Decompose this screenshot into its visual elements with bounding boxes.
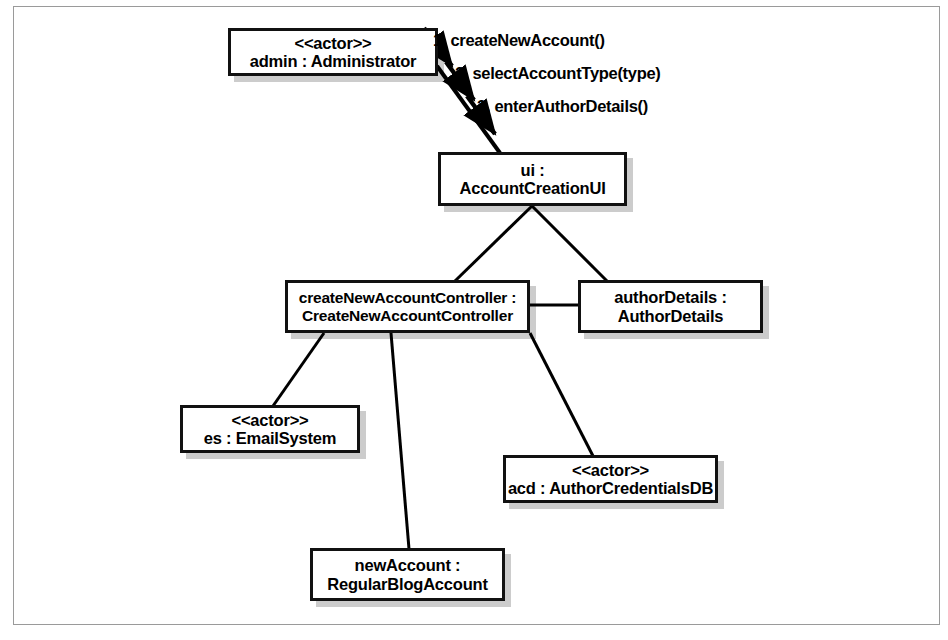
uml-communication-diagram: <<actor>> admin : Administrator ui : Acc… (0, 0, 948, 640)
link-controller-to-credentials-db (530, 333, 593, 456)
node-new-account-role: newAccount : (355, 556, 461, 574)
link-ui-to-controller (455, 206, 532, 281)
node-controller-class: CreateNewAccountController (302, 307, 513, 324)
message-label-3: 3. enterAuthorDetails() (477, 97, 648, 116)
node-author-details-class: AuthorDetails (618, 307, 724, 325)
node-ui[interactable]: ui : AccountCreationUI (438, 152, 627, 206)
node-ui-role: ui : (521, 161, 545, 179)
node-admin[interactable]: <<actor>> admin : Administrator (228, 28, 438, 76)
node-admin-stereotype: <<actor>> (294, 34, 371, 52)
node-ui-class: AccountCreationUI (459, 179, 605, 197)
link-controller-to-new-account (391, 333, 409, 549)
node-author-credentials-db-label: acd : AuthorCredentialsDB (508, 479, 713, 497)
node-new-account-class: RegularBlogAccount (327, 575, 488, 593)
node-controller-role: createNewAccountController : (299, 289, 516, 306)
message-label-2: 2. selectAccountType(type) (455, 64, 661, 83)
node-author-details-role: authorDetails : (614, 288, 727, 306)
node-email-system-stereotype: <<actor>> (231, 411, 308, 429)
node-create-new-account-controller[interactable]: createNewAccountController : CreateNewAc… (285, 280, 530, 333)
node-new-account[interactable]: newAccount : RegularBlogAccount (310, 548, 505, 601)
node-email-system-label: es : EmailSystem (204, 429, 337, 447)
node-email-system[interactable]: <<actor>> es : EmailSystem (180, 405, 360, 453)
node-author-credentials-db-stereotype: <<actor>> (572, 461, 649, 479)
message-label-1: 1. createNewAccount() (433, 31, 605, 50)
node-admin-label: admin : Administrator (250, 52, 417, 70)
link-controller-to-email-system (273, 333, 324, 406)
node-author-details[interactable]: authorDetails : AuthorDetails (578, 280, 763, 333)
node-author-credentials-db[interactable]: <<actor>> acd : AuthorCredentialsDB (503, 455, 718, 503)
link-ui-to-author-details (532, 206, 607, 281)
